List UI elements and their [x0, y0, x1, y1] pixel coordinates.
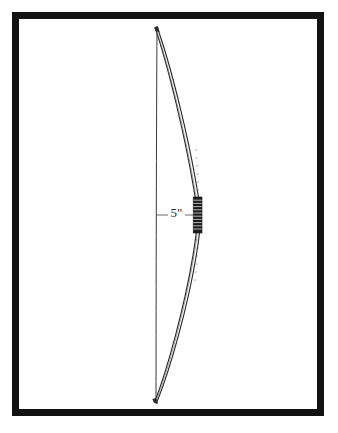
bow-grip-wrap	[193, 197, 202, 233]
drawing-canvas: 5"	[0, 0, 338, 433]
figure-page: 5"	[0, 0, 338, 433]
bow-top-tip-nock	[155, 27, 160, 32]
longbow-drawing: 5"	[0, 0, 338, 433]
bowstring	[156, 27, 157, 403]
brace-height-dimension-label: 5"	[171, 205, 183, 220]
